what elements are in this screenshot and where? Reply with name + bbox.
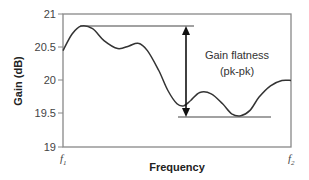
x-tick-label-f1: f1 [60,152,67,167]
arrow-up-head [182,26,190,35]
gain-curve [63,26,291,116]
x-tick-label-f2: f2 [288,152,295,167]
annotation-label-line1: Gain flatness [205,49,270,61]
x-axis-title: Frequency [149,161,206,173]
y-tick-label: 21 [44,8,56,20]
y-tick-label: 20 [44,74,56,86]
y-axis-labels: 21 20.5 20 19.5 19 [35,8,56,153]
gain-flatness-chart: 21 20.5 20 19.5 19 Gain (dB) f1 f2 Frequ… [0,0,309,180]
flatness-arrow [182,26,190,117]
arrow-down-head [182,108,190,117]
y-axis-ticks [58,14,63,147]
annotation-label-line2: (pk-pk) [220,65,254,77]
y-tick-label: 19 [44,141,56,153]
y-tick-label: 20.5 [35,41,56,53]
y-tick-label: 19.5 [35,107,56,119]
y-axis-title: Gain (dB) [12,56,24,106]
